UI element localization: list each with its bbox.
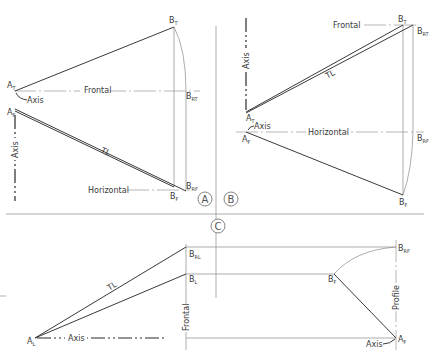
label-bt: BT [398, 15, 408, 25]
label-horizontal: Horizontal [308, 128, 349, 137]
label-bt: BT [169, 16, 179, 26]
label-brf: BRF [398, 244, 410, 254]
label-al: AL [27, 337, 35, 347]
label-frontal: Frontal [182, 304, 191, 331]
axis-pointer-arrow [16, 93, 27, 100]
revolution-arc [334, 247, 396, 274]
label-brf: BRF [417, 134, 429, 144]
label-brl: BRL [189, 250, 201, 260]
label-bf: BF [399, 198, 408, 208]
line-af-bf [15, 111, 174, 187]
line-at-bt [246, 25, 403, 112]
label-af: AF [7, 108, 15, 118]
label-axis-horizontal: Axis [68, 334, 85, 343]
label-brf: BRF [186, 182, 198, 192]
panel-a: AT Axis AF Axis Axis Frontal TL BT BRT B… [7, 16, 212, 206]
panel-label-a: A [202, 194, 209, 205]
panel-b: Axis Frontal BT BRT TL AT Axis AF Horizo… [224, 15, 430, 208]
panel-c: C AL Axis TL BRL BL Frontal BF BRF Profi… [27, 219, 410, 350]
label-horizontal: Horizontal [88, 186, 129, 195]
label-axis-vertical: Axis [242, 52, 251, 69]
label-at: AT [7, 81, 16, 91]
label-af: AF [398, 335, 406, 345]
label-bl: BL [189, 275, 198, 285]
line-al-brl-tl [35, 247, 186, 338]
label-bf: BF [170, 192, 179, 202]
revolution-arc [174, 27, 186, 91]
revolution-arc [403, 132, 413, 195]
label-axis-pointer: Axis [254, 122, 271, 131]
label-frontal: Frontal [84, 86, 111, 95]
label-tl: TL [323, 68, 337, 81]
label-tl: TL [105, 280, 119, 293]
label-profile: Profile [392, 285, 401, 310]
line-at-bt [15, 27, 174, 91]
label-axis-pointer: Axis [366, 340, 383, 349]
label-af: AF [242, 135, 250, 145]
panel-label-b: B [228, 194, 235, 205]
panel-label-c: C [215, 221, 222, 232]
axis-pointer-arrow [383, 339, 395, 344]
label-frontal: Frontal [333, 21, 360, 30]
label-brt: BRT [186, 92, 199, 102]
label-axis-vertical-text: Axis [11, 141, 20, 158]
line-bf-af [334, 274, 396, 338]
line-af-bf [246, 132, 403, 195]
label-axis-pointer: Axis [27, 96, 44, 105]
revolution-diagram: AT Axis AF Axis Axis Frontal TL BT BRT B… [0, 0, 437, 359]
label-brt: BRT [417, 27, 430, 37]
label-bf: BF [328, 275, 337, 285]
